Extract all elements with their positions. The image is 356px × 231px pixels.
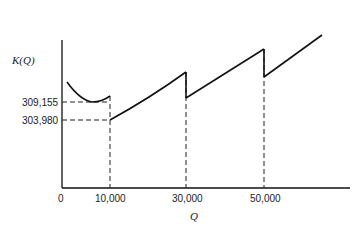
ytick-303980: 303,980: [22, 115, 59, 126]
segment-1: [67, 82, 110, 102]
xtick-0: 0: [58, 193, 64, 204]
xtick-30000: 30,000: [172, 193, 203, 204]
x-axis-label: Q: [190, 210, 198, 222]
segment-3: [186, 49, 264, 98]
ytick-309155: 309,155: [22, 97, 59, 108]
segment-4: [264, 35, 322, 77]
xtick-50000: 50,000: [250, 193, 281, 204]
segment-2: [110, 72, 186, 120]
xtick-10000: 10,000: [95, 193, 126, 204]
cost-chart: K(Q) 309,155 303,980 0 10,000 30,000 50,…: [0, 0, 356, 231]
y-axis-label: K(Q): [11, 54, 35, 67]
